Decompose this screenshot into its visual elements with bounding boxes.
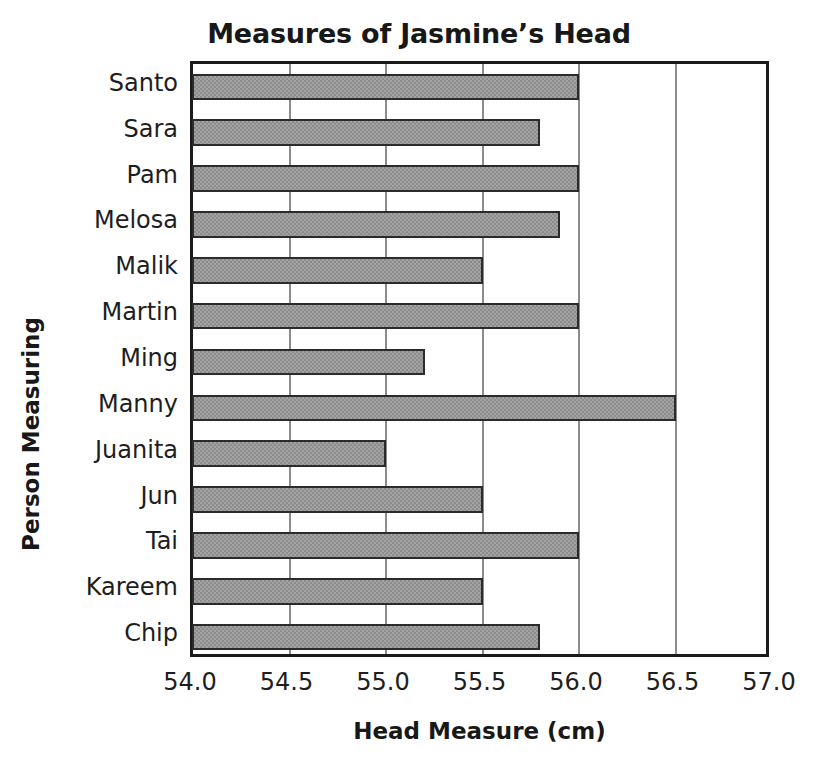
y-tick-label-ming: Ming: [0, 344, 178, 372]
bar-row: [193, 578, 766, 605]
y-axis-tick-labels: SantoSaraPamMelosaMalikMartinMingMannyJu…: [0, 61, 178, 657]
bar-row: [193, 303, 766, 330]
x-axis-tick-labels: 54.054.555.055.556.056.557.0: [0, 668, 838, 704]
y-tick-label-kareem: Kareem: [0, 573, 178, 601]
bar-malik: [192, 257, 483, 284]
bar-chip: [192, 624, 540, 651]
bar-sara: [192, 119, 540, 146]
bar-row: [193, 349, 766, 376]
bar-martin: [192, 303, 579, 330]
bar-chart-figure: Measures of Jasmine’s Head Person Measur…: [0, 0, 838, 768]
bar-row: [193, 532, 766, 559]
y-tick-label-santo: Santo: [0, 69, 178, 97]
y-tick-label-tai: Tai: [0, 527, 178, 555]
bars-layer: [193, 64, 766, 654]
y-tick-label-sara: Sara: [0, 115, 178, 143]
x-axis-title: Head Measure (cm): [190, 718, 769, 744]
bar-row: [193, 74, 766, 101]
page-title: Measures of Jasmine’s Head: [0, 18, 838, 49]
y-tick-label-chip: Chip: [0, 619, 178, 647]
bar-manny: [192, 395, 676, 422]
bar-jun: [192, 486, 483, 513]
y-tick-label-manny: Manny: [0, 390, 178, 418]
bar-santo: [192, 74, 579, 101]
bar-row: [193, 486, 766, 513]
bar-row: [193, 395, 766, 422]
bar-row: [193, 257, 766, 284]
y-tick-label-jun: Jun: [0, 482, 178, 510]
bar-row: [193, 440, 766, 467]
bar-ming: [192, 349, 425, 376]
bar-kareem: [192, 578, 483, 605]
y-tick-label-malik: Malik: [0, 252, 178, 280]
x-tick-label-57.0: 57.0: [709, 668, 829, 696]
bar-row: [193, 119, 766, 146]
bar-row: [193, 624, 766, 651]
y-tick-label-juanita: Juanita: [0, 436, 178, 464]
plot-area: [190, 61, 769, 657]
y-tick-label-melosa: Melosa: [0, 206, 178, 234]
bar-pam: [192, 165, 579, 192]
y-tick-label-martin: Martin: [0, 298, 178, 326]
bar-row: [193, 165, 766, 192]
y-tick-label-pam: Pam: [0, 161, 178, 189]
bar-juanita: [192, 440, 386, 467]
bar-melosa: [192, 211, 560, 238]
bar-tai: [192, 532, 579, 559]
bar-row: [193, 211, 766, 238]
